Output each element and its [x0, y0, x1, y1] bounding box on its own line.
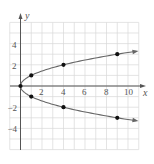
data-point — [61, 105, 65, 109]
data-point — [29, 95, 33, 99]
upper-branch-curve — [21, 51, 136, 86]
y-tick-neg2: −2 — [8, 103, 18, 113]
x-axis-label: x — [142, 87, 148, 98]
data-point — [18, 84, 22, 88]
x-tick-2: 2 — [39, 87, 44, 97]
lower-curve-arrow-icon — [132, 118, 138, 123]
data-point — [61, 63, 65, 67]
x-tick-8: 8 — [104, 87, 109, 97]
x-tick-10: 10 — [124, 87, 134, 97]
data-point — [115, 116, 119, 120]
parabola-chart: y x 2 4 6 8 10 4 2 −2 −4 — [0, 0, 154, 164]
y-axis-arrow-icon — [19, 13, 23, 19]
y-tick-neg4: −4 — [8, 124, 18, 134]
axes: y x — [10, 10, 148, 150]
x-tick-6: 6 — [82, 87, 87, 97]
y-tick-4: 4 — [12, 40, 17, 50]
y-tick-2: 2 — [12, 61, 17, 71]
y-axis-label: y — [24, 10, 30, 21]
upper-curve-arrow-icon — [132, 50, 138, 55]
data-point — [115, 52, 119, 56]
x-tick-4: 4 — [61, 87, 66, 97]
lower-branch-curve — [21, 86, 136, 121]
data-point — [29, 73, 33, 77]
